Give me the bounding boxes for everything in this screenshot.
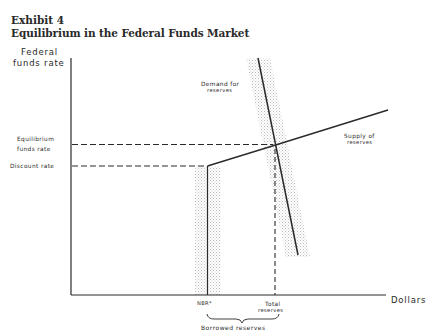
demand-label-line2: reserves bbox=[207, 87, 232, 93]
y-axis-label-line1: Federal bbox=[21, 47, 58, 57]
supply-label-line2: reserves bbox=[347, 139, 372, 145]
nbr-label: NBR* bbox=[197, 300, 212, 306]
equilibrium-rate-label-line2: funds rate bbox=[17, 146, 51, 152]
x-axis-label: Dollars bbox=[391, 295, 426, 305]
y-axis-label-line2: funds rate bbox=[13, 58, 65, 68]
demand-curve bbox=[258, 58, 298, 255]
total-reserves-label-line2: reserves bbox=[258, 307, 283, 313]
discount-rate-label: Discount rate bbox=[10, 163, 54, 169]
fed-funds-diagram: Federal funds rate Dollars Equilibrium f… bbox=[0, 0, 436, 336]
equilibrium-rate-label-line1: Equilibrium bbox=[17, 136, 54, 143]
borrowed-reserves-brace bbox=[207, 314, 279, 323]
borrowed-reserves-label: Borrowed reserves bbox=[201, 324, 266, 331]
